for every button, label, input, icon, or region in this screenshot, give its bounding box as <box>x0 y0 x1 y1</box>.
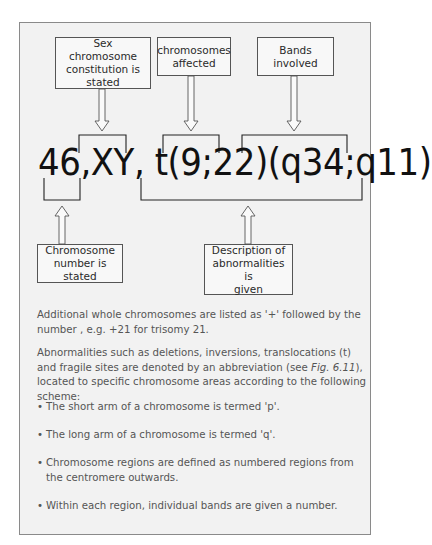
karyotype-formula: 46,XY, t(9;22)(q34;q11) <box>38 143 432 183</box>
bullet-icon: • <box>37 456 43 471</box>
arrow-down-icon <box>184 76 198 131</box>
bullet-icon: • <box>37 428 43 443</box>
bullet-text: The long arm of a chromosome is termed '… <box>46 429 276 440</box>
bullet-text: Within each region, individual bands are… <box>46 500 338 511</box>
bullet-text: The short arm of a chromosome is termed … <box>46 401 280 412</box>
bullet-icon: • <box>37 499 43 514</box>
arrow-down-icon <box>287 76 301 131</box>
label-chromosome-number: Chromosome number is stated <box>37 244 123 283</box>
bullet-item: • Within each region, individual bands a… <box>37 499 367 514</box>
arrow-up-icon <box>55 206 69 244</box>
bullet-item: • The short arm of a chromosome is terme… <box>37 400 367 415</box>
paragraph-text: Abnormalities such as deletions, inversi… <box>37 347 351 373</box>
bullet-item: • The long arm of a chromosome is termed… <box>37 428 367 443</box>
bullet-item: • Chromosome regions are defined as numb… <box>37 456 367 485</box>
bullet-icon: • <box>37 400 43 415</box>
paragraph-abnormalities: Abnormalities such as deletions, inversi… <box>37 346 367 404</box>
figure-reference: Fig. 6.11 <box>311 362 355 373</box>
arrow-up-icon <box>241 206 255 244</box>
bullet-text: Chromosome regions are defined as number… <box>46 457 354 483</box>
paragraph-additional-chromosomes: Additional whole chromosomes are listed … <box>37 308 367 337</box>
arrow-down-icon <box>95 89 109 131</box>
label-description-abnormalities: Description of abnormalities is given <box>204 244 293 295</box>
